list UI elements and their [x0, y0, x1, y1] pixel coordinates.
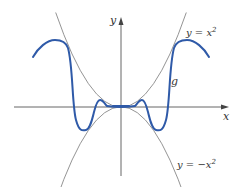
label-upper-bound-text: y = x — [185, 27, 212, 38]
x-axis-label: x — [223, 110, 230, 123]
curve-g-center — [107, 106, 135, 107]
axes — [14, 17, 229, 176]
squeeze-diagram: y x y = x2 y = −x2 g — [0, 0, 234, 187]
label-upper-bound: y = x2 — [185, 26, 217, 38]
y-axis-arrow-icon — [119, 17, 124, 25]
label-lower-bound-text: y = −x — [176, 159, 212, 170]
label-upper-bound-exp: 2 — [211, 26, 217, 34]
label-lower-bound: y = −x2 — [176, 158, 216, 170]
label-lower-bound-exp: 2 — [210, 158, 216, 166]
x-axis-arrow-icon — [221, 105, 229, 110]
label-g: g — [171, 75, 178, 88]
y-axis-label: y — [109, 14, 117, 27]
